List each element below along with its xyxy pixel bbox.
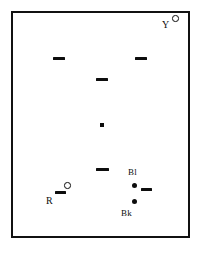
- plot-label-bl: Bl: [128, 168, 137, 177]
- marker-dash-upper-left: [53, 57, 65, 60]
- marker-dot-bk: [132, 199, 137, 204]
- marker-dash-mid-center: [96, 78, 108, 81]
- marker-dash-near-r: [55, 191, 66, 194]
- marker-dash-near-bl: [141, 188, 152, 191]
- marker-open-circle-y: [172, 15, 179, 22]
- marker-dot-bl: [132, 183, 137, 188]
- plot-border: Y Bl Bk R: [11, 11, 190, 238]
- marker-dash-upper-right: [135, 57, 147, 60]
- marker-open-circle-r: [64, 182, 71, 189]
- figure-canvas: Y Bl Bk R: [0, 0, 203, 253]
- plot-label-r: R: [46, 196, 53, 206]
- marker-dot-center: [100, 123, 104, 127]
- marker-dash-lower-center: [96, 168, 109, 171]
- plot-label-y: Y: [162, 20, 169, 30]
- plot-label-bk: Bk: [121, 209, 132, 218]
